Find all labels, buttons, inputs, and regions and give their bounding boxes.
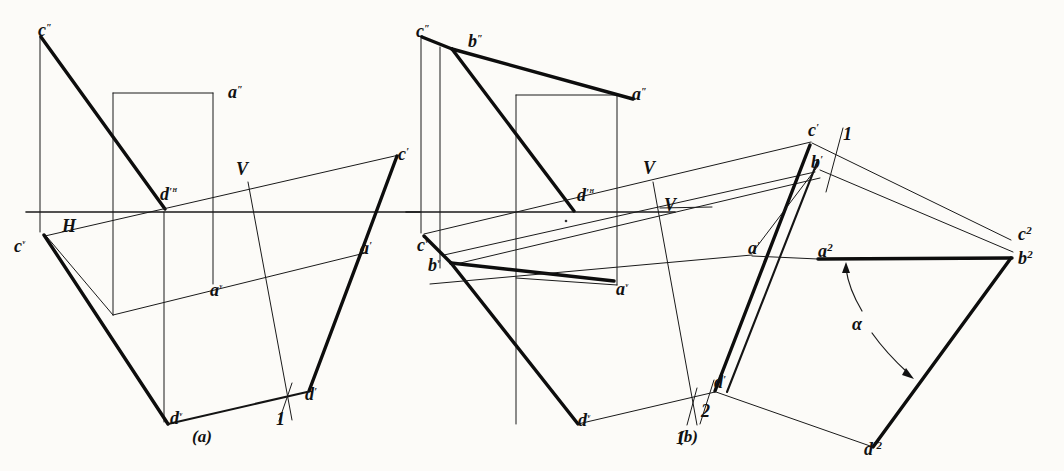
receding-line-c-a (45, 155, 399, 236)
aux-edge-ap-a2-b (752, 256, 818, 259)
edge-b2-a2-top-b (452, 49, 633, 99)
technical-drawing-canvas: c″ a″ d′ᴴ H cᵛ V c′ a′ aᵛ dᵛ d′ 1 (a) (0, 0, 1064, 471)
edge-ap-cp-a (362, 156, 397, 250)
label-d-prime-a: d′ (305, 384, 317, 404)
aux-edge-d2-dp-b (716, 392, 873, 447)
label-plane-v-upper-b: V (643, 158, 657, 178)
label-c-prime-a: c′ (398, 144, 409, 164)
label-d-v-a: dᵛ (170, 408, 183, 428)
edge-bv-dv-b (451, 263, 578, 424)
figure-b: c″ b″ a″ d′ᴴ V V cᵛ bᵛ aᵛ dᵛ a′ c′ b′ 1 … (406, 21, 1033, 459)
label-a-prime-a: a′ (360, 238, 372, 258)
label-d-v-b: dᵛ (578, 410, 591, 430)
label-c-double-prime-a: c″ (38, 20, 52, 40)
label-angle-alpha-b: α (852, 314, 863, 334)
figure-a: c″ a″ d′ᴴ H cᵛ V c′ a′ aᵛ dᵛ d′ 1 (a) (14, 20, 420, 446)
receding-line-a-a (113, 253, 365, 315)
label-c-prime-b: c′ (808, 120, 819, 140)
fold-line-1-top-b (826, 128, 843, 192)
caption-figure-b: (b) (678, 427, 698, 446)
edge-c2-d2-a (41, 37, 165, 209)
trace-point-dot-b (565, 220, 568, 223)
label-line-1-top-b: 1 (843, 124, 852, 144)
aux-edge-cp-c2-b (812, 143, 1011, 240)
edge-cp-dp-b (715, 145, 810, 391)
label-c-2-b: c2 (1018, 224, 1032, 244)
label-a-double-prime-a: a″ (228, 82, 243, 102)
label-line-1-a: 1 (276, 409, 285, 429)
alpha-leader-upper (846, 269, 862, 311)
aux-edge-b2-d2-b (873, 258, 1011, 447)
label-b-double-prime-b: b″ (468, 31, 483, 51)
receding-line-b2-b (452, 178, 820, 265)
label-c-v-b: cᵛ (417, 235, 429, 255)
edge-b2-dh-top-b (452, 49, 574, 211)
label-plane-v-lower-b: V (664, 195, 678, 215)
aux-edge-bp-b2-b (820, 170, 1013, 252)
edge-c2-b2-top-b (422, 37, 452, 49)
edge-dp-ap-a (309, 250, 362, 391)
label-d-prime-b: d′ (714, 372, 726, 392)
alpha-arrow-upper (842, 262, 850, 273)
label-b-2-b: b2 (1018, 248, 1033, 268)
label-a-v-a: aᵛ (210, 280, 223, 300)
edge-dv-dp-a (168, 392, 307, 424)
label-a-v-b: aᵛ (616, 279, 629, 299)
label-c-v-a: cᵛ (14, 236, 26, 256)
label-a-prime-b: a′ (748, 238, 760, 258)
caption-figure-a: (a) (192, 427, 212, 446)
edge-bp-dp-b (727, 160, 818, 392)
fold-line-1-a (248, 182, 292, 420)
connector-cv-lower-a (47, 237, 113, 315)
label-d-2-b: d′2 (864, 439, 882, 459)
edge-bv-av-b (451, 263, 614, 281)
label-b-v-b: bᵛ (428, 255, 441, 275)
label-d-prime-h-b: d′ᴴ (577, 185, 594, 205)
edge-cv-dv-a (44, 235, 168, 424)
label-d-prime-h-a: d′ᴴ (160, 184, 177, 204)
label-plane-v-a: V (236, 159, 250, 179)
label-b-prime-b: b′ (811, 152, 823, 172)
drawing-sheet: c″ a″ d′ᴴ H cᵛ V c′ a′ aᵛ dᵛ d′ 1 (a) (0, 0, 1064, 471)
label-plane-h-a: H (61, 216, 77, 236)
alpha-leader-lower (872, 333, 908, 373)
label-line-2-b: 2 (700, 401, 710, 421)
label-a-double-prime-b: a″ (632, 84, 647, 104)
aux-edge-a2-b2-b (818, 258, 1012, 259)
fold-line-v-b (653, 182, 697, 425)
